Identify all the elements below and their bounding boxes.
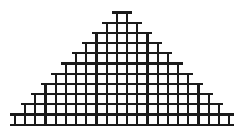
stepped-pyramid-diagram bbox=[0, 0, 244, 133]
background-rect bbox=[0, 0, 244, 133]
figure-canvas bbox=[0, 0, 244, 133]
